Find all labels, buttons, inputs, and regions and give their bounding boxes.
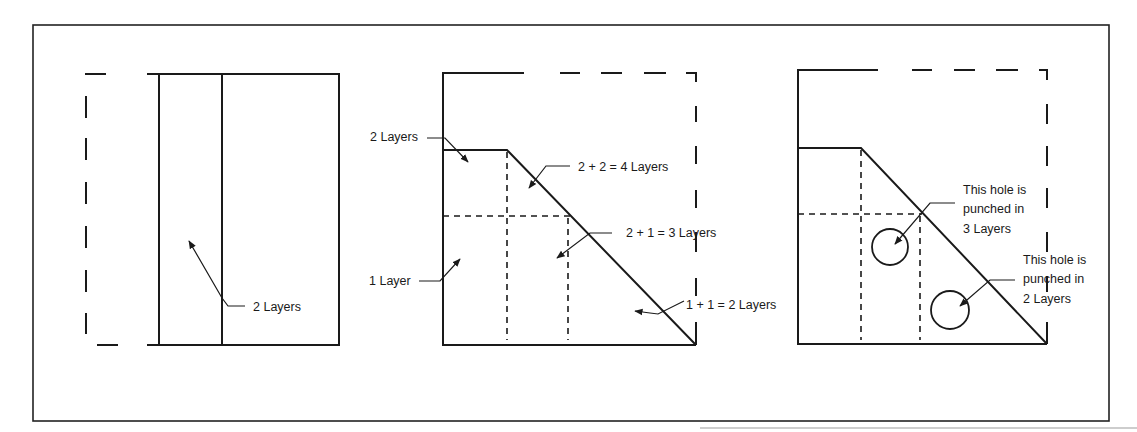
outer-frame	[33, 25, 1109, 421]
panel-1: 2 Layers	[85, 74, 339, 345]
panel-2-dashed-outline	[560, 73, 696, 345]
panel-2-folded-shape	[443, 73, 696, 345]
leader-1-layer	[419, 259, 460, 281]
leader-4-layers	[529, 166, 570, 188]
panel-1-folded-sheet	[147, 74, 339, 345]
leader-3-layers	[557, 233, 612, 258]
label-1-plus-1-2-layers: 1 + 1 = 2 Layers	[686, 298, 776, 312]
label-hole-3-line-2: punched in	[963, 202, 1024, 216]
label-2-plus-1-3-layers: 2 + 1 = 3 Layers	[626, 226, 716, 240]
panel-1-leader-2-layers	[189, 241, 245, 306]
panel-1-dashed-outline	[85, 74, 118, 345]
label-hole-3-line-3: 3 Layers	[963, 222, 1011, 236]
label-hole-2-line-1: This hole is	[1023, 253, 1086, 267]
label-hole-3-line-1: This hole is	[963, 183, 1026, 197]
panel-2: 2 Layers 2 + 2 = 4 Layers 2 + 1 = 3 Laye…	[369, 73, 776, 345]
panel-3-fold-lines	[798, 150, 922, 340]
label-2-layers: 2 Layers	[370, 130, 418, 144]
label-2-plus-2-4-layers: 2 + 2 = 4 Layers	[578, 160, 668, 174]
label-1-layer: 1 Layer	[369, 274, 411, 288]
label-hole-2-line-2: punched in	[1023, 272, 1084, 286]
panel-3: This hole is punched in 3 Layers This ho…	[798, 70, 1086, 344]
label-2-layers-panel-1: 2 Layers	[253, 300, 301, 314]
folding-diagram: 2 Layers	[0, 0, 1137, 432]
panel-2-fold-lines	[443, 152, 570, 340]
hole-2-layers	[931, 291, 969, 329]
label-hole-2-line-3: 2 Layers	[1023, 292, 1071, 306]
